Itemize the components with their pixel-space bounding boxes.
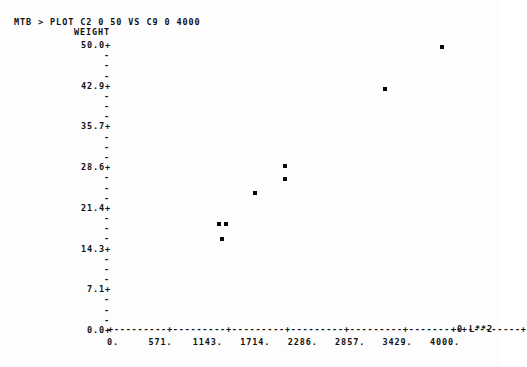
data-point: [220, 237, 224, 241]
data-point: [283, 177, 287, 181]
data-point: [283, 164, 287, 168]
data-point: [217, 222, 221, 226]
data-point: [383, 87, 387, 91]
data-point: [253, 191, 257, 195]
data-point: [224, 222, 228, 226]
data-point: [440, 45, 444, 49]
